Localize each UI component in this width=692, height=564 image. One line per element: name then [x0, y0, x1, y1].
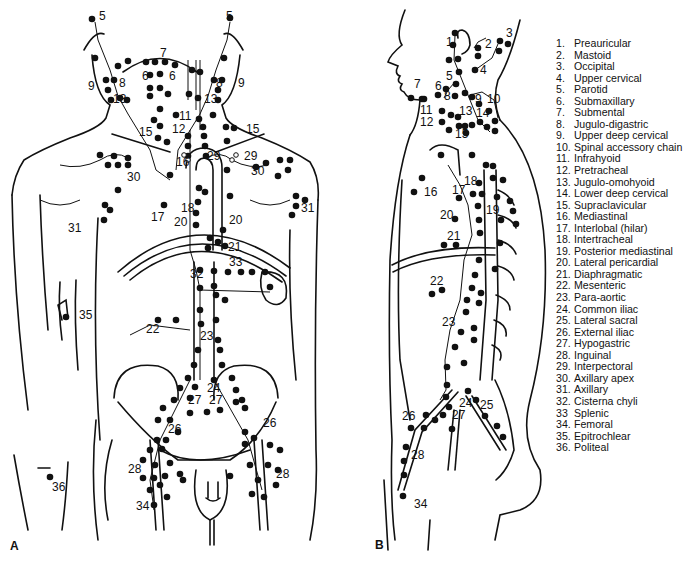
node-label-8: 8 — [216, 76, 223, 90]
legend-label: Lower deep cervical — [574, 188, 668, 200]
node-label-28: 28 — [411, 448, 425, 462]
legend-number: 5. — [556, 84, 574, 96]
node-label-23: 23 — [442, 315, 456, 329]
node-label-33: 33 — [229, 255, 243, 269]
node-label-34: 34 — [136, 499, 150, 513]
node-label-10: 10 — [487, 92, 501, 106]
panel-a-label: A — [10, 539, 19, 553]
legend-label: Preauricular — [574, 38, 631, 50]
legend-number: 25. — [556, 315, 574, 327]
node-label-6: 6 — [435, 79, 442, 93]
legend-item: 12.Pretracheal — [556, 165, 682, 177]
node-label-30: 30 — [251, 164, 265, 178]
node-label-23: 23 — [200, 329, 214, 343]
node-label-29: 29 — [207, 149, 221, 163]
node-label-31: 31 — [68, 221, 82, 235]
node-label-26: 26 — [168, 422, 182, 436]
node-label-17: 17 — [151, 210, 165, 224]
node-label-28: 28 — [128, 462, 142, 476]
node-label-15: 15 — [139, 125, 153, 139]
node-label-8: 8 — [444, 89, 451, 103]
legend-label: Cisterna chyli — [574, 396, 638, 408]
legend-number: 23. — [556, 292, 574, 304]
node-label-7: 7 — [160, 46, 167, 60]
node-label-26: 26 — [263, 416, 277, 430]
node-label-19: 19 — [486, 203, 500, 217]
node-label-12: 12 — [420, 115, 434, 129]
node-label-6: 6 — [169, 69, 176, 83]
node-label-20: 20 — [174, 215, 188, 229]
node-label-28: 28 — [276, 467, 290, 481]
legend-label: Pretracheal — [574, 165, 628, 177]
legend-number: 1. — [556, 38, 574, 50]
node-label-35: 35 — [79, 308, 93, 322]
node-label-8: 8 — [119, 76, 126, 90]
node-label-22: 22 — [430, 274, 444, 288]
node-label-29: 29 — [244, 149, 258, 163]
node-label-30: 30 — [127, 170, 141, 184]
node-label-31: 31 — [301, 201, 315, 215]
panel-b-label: B — [375, 538, 384, 552]
node-label-20: 20 — [440, 208, 454, 222]
node-label-27: 27 — [452, 408, 466, 422]
legend-item: 36.Politeal — [556, 442, 682, 454]
node-label-5: 5 — [446, 69, 453, 83]
node-label-9: 9 — [475, 92, 482, 106]
node-label-9: 9 — [238, 76, 245, 90]
legend-label: Politeal — [574, 442, 609, 454]
node-label-22: 22 — [146, 322, 160, 336]
node-label-3: 3 — [506, 26, 513, 40]
legend-item: 1.Preauricular — [556, 38, 682, 50]
node-label-5: 5 — [226, 9, 233, 23]
node-label-14: 14 — [476, 106, 490, 120]
node-label-9: 9 — [88, 79, 95, 93]
node-label-21: 21 — [228, 240, 242, 254]
node-label-11: 11 — [179, 109, 192, 123]
legend-item: 23.Para-aortic — [556, 292, 682, 304]
panel-a-node-labels: 5576688991313111215152929163030181731312… — [52, 9, 315, 513]
legend-label: Para-aortic — [574, 292, 626, 304]
node-label-25: 25 — [480, 398, 494, 412]
node-label-12: 12 — [172, 122, 186, 136]
legend-number: 14. — [556, 188, 574, 200]
node-label-5: 5 — [99, 9, 106, 23]
legend-item: 14.Lower deep cervical — [556, 188, 682, 200]
legend-label: Lateral sacral — [574, 315, 638, 327]
legend-label: Femoral — [574, 419, 613, 431]
node-label-27: 27 — [188, 393, 202, 407]
node-label-20: 20 — [229, 213, 243, 227]
node-label-18: 18 — [464, 174, 478, 188]
legend-number: 12. — [556, 165, 574, 177]
legend-item: 5.Parotid — [556, 84, 682, 96]
legend-item: 34.Femoral — [556, 419, 682, 431]
node-label-7: 7 — [414, 77, 421, 91]
node-label-15: 15 — [246, 122, 260, 136]
legend-number: 36. — [556, 442, 574, 454]
node-label-27: 27 — [209, 393, 223, 407]
node-label-13: 13 — [459, 104, 473, 118]
node-label-17: 17 — [452, 183, 466, 197]
legend: 1.Preauricular2.Mastoid3.Occipital4.Uppe… — [556, 38, 682, 454]
node-label-32: 32 — [190, 267, 204, 281]
node-label-16: 16 — [424, 185, 438, 199]
node-label-26: 26 — [402, 409, 416, 423]
node-label-13: 13 — [113, 92, 127, 106]
node-label-16: 16 — [176, 155, 190, 169]
legend-label: Parotid — [574, 84, 608, 96]
legend-item: 3.Occipital — [556, 61, 682, 73]
legend-label: Occipital — [574, 61, 615, 73]
node-label-15: 15 — [455, 127, 469, 141]
node-label-6: 6 — [142, 69, 149, 83]
legend-number: 3. — [556, 61, 574, 73]
node-label-4: 4 — [480, 63, 487, 77]
node-label-21: 21 — [447, 229, 461, 243]
legend-number: 34. — [556, 419, 574, 431]
node-label-36: 36 — [52, 480, 66, 494]
legend-item: 32.Cisterna chyli — [556, 396, 682, 408]
node-label-18: 18 — [181, 201, 195, 215]
legend-number: 32. — [556, 396, 574, 408]
node-label-1: 1 — [446, 35, 453, 49]
node-label-13: 13 — [204, 92, 218, 106]
node-label-34: 34 — [414, 497, 428, 511]
node-label-2: 2 — [485, 37, 492, 51]
